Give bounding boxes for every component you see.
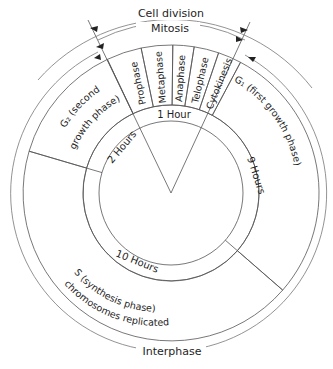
metaphase-label: Metaphase xyxy=(152,51,168,104)
mitosis-duration-label: 1 Hour xyxy=(157,109,192,120)
s-label-line1: S (synthesis phase) xyxy=(72,267,156,314)
interphase-label: Interphase xyxy=(142,345,201,358)
g2-s-boundary-inner xyxy=(87,168,102,173)
s-duration-label: 10 Hours xyxy=(114,248,160,275)
cell-division-label: Cell division xyxy=(138,7,204,20)
g1-label: G₁ (first growth phase) xyxy=(233,73,304,166)
g1-duration-label: 9 Hours xyxy=(245,155,267,195)
arrowhead-icon xyxy=(96,43,104,49)
cell-cycle-diagram: Cell division Mitosis Interphase Prophas… xyxy=(0,0,333,369)
g2-duration-label: 2 Hours xyxy=(105,128,138,165)
g1-s-boundary-inner xyxy=(225,240,237,251)
arrowhead-icon xyxy=(94,54,101,60)
arrowhead-icon xyxy=(240,27,248,33)
mitosis-label: Mitosis xyxy=(151,22,189,35)
anaphase-label: Anaphase xyxy=(173,54,187,102)
